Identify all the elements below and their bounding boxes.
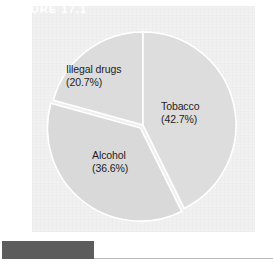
figure-caption-rule [94,258,273,259]
pie-chart [0,0,273,272]
pie-label-illegal-drugs: Illegal drugs (20.7%) [66,63,121,88]
figure-container: Illegal drugs (20.7%) Tobacco (42.7%) Al… [0,0,273,272]
pie-label-illegal-drugs-percent: (20.7%) [66,76,121,89]
pie-label-alcohol-name: Alcohol [92,149,128,162]
pie-label-illegal-drugs-name: Illegal drugs [66,63,121,76]
figure-caption-label: FIGURE 17.1 [9,3,87,15]
pie-label-tobacco-name: Tobacco [161,100,199,113]
figure-caption-bar [2,241,94,259]
pie-label-tobacco-percent: (42.7%) [161,113,199,126]
pie-label-alcohol-percent: (36.6%) [92,162,128,175]
pie-label-tobacco: Tobacco (42.7%) [161,100,199,125]
pie-label-alcohol: Alcohol (36.6%) [92,149,128,174]
